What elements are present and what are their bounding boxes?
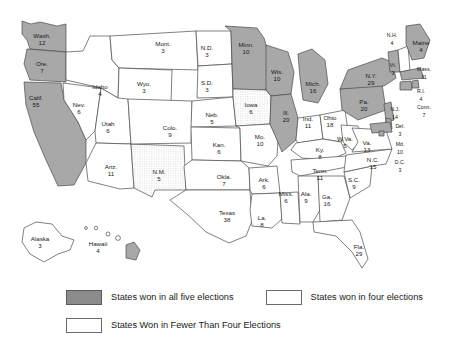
legend-item-five: States won in all five elections [66, 290, 234, 305]
state-votes-va: 13 [364, 146, 371, 153]
state-label-ky: Ky. [316, 146, 325, 153]
state-hi-isle-3 [106, 232, 110, 236]
state-label-conn: Conn. [417, 104, 431, 110]
state-mi [298, 49, 328, 103]
state-votes-ariz: 11 [108, 170, 115, 177]
state-label-kan: Kan. [213, 141, 226, 148]
state-hi-isle-2 [94, 226, 98, 230]
state-votes-nc: 15 [370, 163, 377, 170]
state-votes-utah: 6 [106, 127, 110, 134]
state-votes-mich: 16 [310, 87, 317, 94]
state-votes-idaho: 4 [98, 90, 102, 97]
legend-item-fewer: States Won in Fewer Than Four Elections [66, 318, 281, 333]
state-votes-ohio: 18 [327, 121, 334, 128]
state-label-ind: Ind. [303, 115, 314, 122]
state-votes-wis: 10 [274, 75, 281, 82]
state-votes-alaska: 3 [38, 242, 42, 249]
state-label-okla: Okla. [217, 173, 232, 180]
state-votes-md: 10 [397, 149, 403, 155]
state-label-ny: N.Y. [365, 72, 377, 79]
state-label-la: La. [258, 214, 267, 221]
state-votes-ky: 8 [318, 153, 322, 160]
state-votes-ind: 11 [305, 122, 312, 129]
state-votes-wash: 12 [39, 39, 46, 46]
state-votes-mass: 11 [421, 74, 426, 80]
state-votes-vt: 3 [392, 70, 395, 76]
state-la [250, 193, 282, 228]
state-votes-wva: 5 [343, 142, 347, 149]
state-label-tenn: Tenn. [312, 167, 327, 174]
state-label-alaska: Alaska [31, 235, 50, 242]
legend-item-four: States won in four elections [266, 290, 423, 305]
state-label-mass: Mass. [417, 66, 431, 72]
state-label-del: Del. [395, 123, 404, 129]
state-label-ga: Ga. [322, 193, 332, 200]
state-label-wash: Wash. [33, 32, 51, 39]
state-label-nc: N.C. [367, 156, 380, 163]
state-label-texas: Texas [219, 209, 235, 216]
state-label-hawaii: Hawaii [89, 240, 108, 247]
state-label-minn: Minn. [238, 41, 253, 48]
state-ms [280, 192, 300, 224]
state-dc [379, 131, 384, 136]
state-label-wva: W.Va. [337, 135, 353, 142]
state-votes-calif: 55 [33, 101, 40, 108]
legend-label-fewer: States Won in Fewer Than Four Elections [111, 320, 281, 330]
state-hi-isle-1 [85, 227, 88, 230]
state-votes-sd: 3 [205, 86, 209, 93]
state-label-pa: Pa. [359, 98, 369, 105]
state-mt [110, 31, 198, 70]
legend-swatch-four [266, 290, 302, 305]
state-votes-ark: 6 [262, 183, 266, 190]
state-votes-iowa: 6 [249, 108, 253, 115]
state-votes-miss: 6 [284, 197, 288, 204]
state-votes-del: 3 [399, 131, 402, 137]
state-votes-ill: 20 [283, 116, 290, 123]
state-votes-pa: 20 [361, 105, 368, 112]
state-votes-nm: 5 [157, 175, 161, 182]
state-ak [22, 222, 74, 262]
state-votes-mo: 10 [257, 140, 264, 147]
state-votes-dc: 3 [399, 167, 402, 173]
state-label-ill: Ill. [283, 109, 289, 116]
state-votes-nev: 6 [77, 108, 81, 115]
state-label-iowa: Iowa [244, 101, 258, 108]
legend-swatch-five [66, 290, 102, 305]
state-label-colo: Colo. [163, 124, 178, 131]
state-label-ri: R.I. [417, 88, 425, 94]
state-votes-la: 8 [260, 221, 264, 228]
legend-label-four: States won in four elections [311, 292, 423, 302]
state-hi [126, 242, 140, 260]
state-label-vt: Vt. [390, 62, 396, 68]
state-label-mich: Mich. [306, 80, 321, 87]
state-votes-conn: 7 [423, 112, 426, 118]
state-label-mo: Mo. [255, 133, 266, 140]
state-label-sc: S.C. [348, 176, 360, 183]
state-co [128, 99, 192, 144]
state-votes-minn: 10 [243, 48, 250, 55]
state-label-nm: N.M. [152, 168, 165, 175]
state-label-va: Va. [363, 139, 372, 146]
state-votes-neb: 5 [210, 118, 214, 125]
state-votes-ore: 7 [40, 67, 44, 74]
state-votes-ny: 29 [368, 79, 375, 86]
state-label-sd: S.D. [201, 79, 213, 86]
state-label-wis: Wis. [271, 68, 283, 75]
state-votes-nd: 3 [205, 51, 209, 58]
state-label-nh: N.H. [387, 32, 397, 38]
state-votes-ala: 9 [304, 197, 308, 204]
state-votes-mont: 3 [161, 47, 165, 54]
state-votes-hawaii: 4 [96, 247, 100, 254]
state-label-idaho: Idaho [92, 83, 108, 90]
map-legend: States won in all five elections States … [0, 286, 450, 341]
state-tx [170, 190, 252, 243]
state-votes-maine: 4 [419, 46, 423, 53]
state-label-ariz: Ariz. [105, 163, 118, 170]
state-label-miss: Miss. [279, 190, 294, 197]
state-votes-nh: 4 [391, 40, 394, 46]
state-votes-kan: 6 [217, 148, 221, 155]
state-label-nd: N.D. [201, 44, 214, 51]
state-label-ohio: Ohio [323, 114, 337, 121]
state-label-ark: Ark. [258, 176, 269, 183]
state-votes-tenn: 11 [317, 174, 324, 181]
